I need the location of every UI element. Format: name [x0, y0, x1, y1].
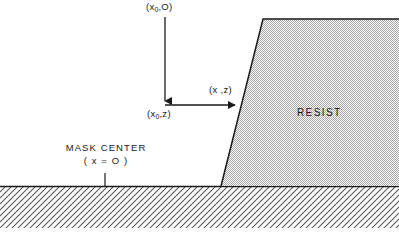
label-mask-center: MASK CENTER [60, 143, 152, 154]
label-x0-z-close: ,z) [159, 108, 170, 119]
resist-region [221, 19, 399, 186]
resist-fill [221, 19, 399, 186]
substrate-region [0, 186, 399, 228]
label-x0-zero-close: ,O) [158, 1, 172, 12]
resist-profile-diagram: (x0,O) (x0,z) (x ,z) RESIST MASK CENTER … [0, 0, 399, 232]
label-x0-zero-subscript: 0 [155, 6, 159, 13]
label-point-x0-zero: (x0,O) [146, 2, 173, 13]
label-x0-zero-open: (x [146, 1, 155, 12]
label-resist-region: RESIST [297, 107, 342, 119]
label-point-x-z: (x ,z) [209, 85, 232, 96]
label-point-x0-z: (x0,z) [147, 109, 171, 120]
substrate-hatch-fill [0, 186, 399, 228]
label-mask-origin: ( x = O ) [60, 156, 152, 167]
label-x0-z-open: (x [147, 108, 156, 119]
label-x0-z-subscript: 0 [156, 113, 160, 120]
